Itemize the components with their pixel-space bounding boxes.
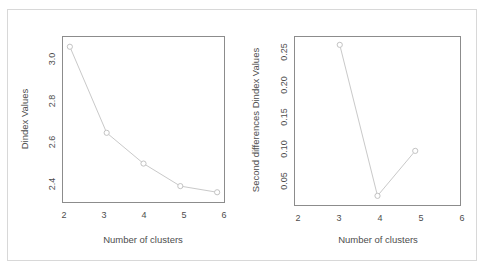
y-axis-title: Second differences Dindex Values [250,48,261,193]
y-tick-label: 2.8 [47,95,57,108]
dindex-plot-svg: 3.0 2.8 2.6 2.4 Dindex Values 2 3 4 5 6 … [0,0,243,271]
figure-container: 3.0 2.8 2.6 2.4 Dindex Values 2 3 4 5 6 … [0,0,485,271]
second-differences-series-points [337,42,418,198]
x-axis-ticks: 2 3 4 5 6 [295,213,464,223]
x-axis-title: Number of clusters [338,234,418,245]
x-tick-label: 3 [101,210,106,220]
x-axis-ticks: 2 3 4 5 6 [61,210,226,220]
data-point-marker [67,44,72,49]
y-tick-label: 0.05 [279,172,289,190]
chart-panel-second-differences: 0.25 0.20 0.15 0.10 0.05 Second differen… [242,0,485,271]
dindex-series-points [67,44,219,195]
data-point-marker [375,193,380,198]
y-tick-label: 2.6 [47,136,57,149]
x-tick-label: 6 [459,213,464,223]
data-point-marker [413,148,418,153]
y-tick-label: 2.4 [47,178,57,191]
dindex-series-line [70,47,217,193]
x-tick-label: 3 [336,213,341,223]
y-axis-ticks: 3.0 2.8 2.6 2.4 [47,53,57,191]
data-point-marker [215,190,220,195]
x-tick-label: 2 [295,213,300,223]
x-tick-label: 5 [418,213,423,223]
x-tick-label: 5 [181,210,186,220]
y-tick-label: 0.20 [279,76,289,94]
data-point-marker [178,184,183,189]
x-tick-label: 2 [61,210,66,220]
x-axis-title: Number of clusters [103,234,183,245]
data-point-marker [141,161,146,166]
data-point-marker [337,42,342,47]
y-tick-label: 3.0 [47,53,57,66]
y-tick-label: 0.10 [279,140,289,158]
x-tick-label: 6 [221,210,226,220]
y-tick-label: 0.25 [279,43,289,61]
y-axis-title: Dindex Values [19,88,30,149]
second-differences-plot-svg: 0.25 0.20 0.15 0.10 0.05 Second differen… [242,0,485,271]
x-tick-label: 4 [377,213,382,223]
second-differences-series-line [340,45,415,196]
plot-area-border [63,37,225,203]
chart-panel-dindex: 3.0 2.8 2.6 2.4 Dindex Values 2 3 4 5 6 … [0,0,243,271]
y-tick-label: 0.15 [279,108,289,126]
plot-area-border [295,37,461,206]
y-axis-ticks: 0.25 0.20 0.15 0.10 0.05 [279,43,289,190]
data-point-marker [104,130,109,135]
x-tick-label: 4 [141,210,146,220]
